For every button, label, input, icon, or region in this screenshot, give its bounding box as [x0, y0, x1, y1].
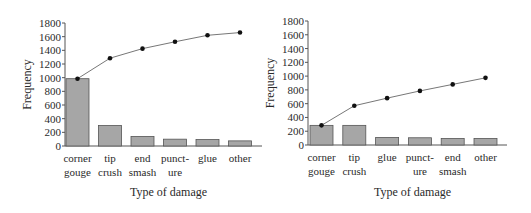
x-tick-label: crush [342, 165, 366, 177]
x-tick-label: crush [98, 166, 122, 178]
y-tick-label: 1400 [282, 43, 305, 55]
y-tick-label: 1800 [282, 15, 305, 27]
x-tick-label: gouge [308, 165, 335, 177]
bar [343, 125, 366, 145]
y-tick-label: 400 [288, 111, 305, 123]
y-tick-label: 600 [288, 98, 305, 110]
x-tick-label: other [229, 152, 252, 164]
bar [474, 138, 497, 145]
y-tick-label: 1200 [39, 58, 62, 70]
x-tick-label: smash [439, 165, 467, 177]
cumulative-marker [450, 82, 455, 87]
y-axis-label: Frequency [263, 58, 277, 109]
y-tick-label: 0 [56, 140, 62, 152]
x-axis-label: Type of damage [130, 185, 207, 199]
y-tick-label: 200 [45, 126, 62, 138]
x-tick-label: corner [63, 152, 91, 164]
y-tick-label: 400 [45, 113, 62, 125]
x-tick-label: tip [104, 152, 116, 164]
bar [229, 141, 252, 146]
y-tick-label: 1000 [282, 70, 305, 82]
x-tick-label: smash [129, 166, 157, 178]
y-tick-label: 1200 [282, 56, 305, 68]
cumulative-marker [140, 46, 145, 51]
x-tick-label: punct- [161, 152, 189, 164]
x-tick-label: tip [348, 151, 360, 163]
x-tick-label: gouge [64, 166, 91, 178]
x-tick-label: other [474, 151, 497, 163]
bar [164, 139, 187, 146]
x-tick-label: corner [307, 151, 335, 163]
cumulative-line [78, 33, 241, 79]
cumulative-marker [418, 89, 423, 94]
x-tick-label: ure [413, 165, 427, 177]
chart-2: 020040060080010001200140016001800Frequen… [263, 15, 507, 199]
y-tick-label: 1800 [39, 17, 62, 29]
x-tick-label: ure [168, 166, 182, 178]
cumulative-marker [319, 123, 324, 128]
cumulative-marker [205, 33, 210, 38]
x-tick-label: end [135, 152, 151, 164]
bar [408, 138, 431, 145]
bar [196, 140, 219, 146]
cumulative-marker [385, 96, 390, 101]
y-tick-label: 1000 [39, 72, 62, 84]
bar [99, 126, 122, 147]
bar [66, 79, 89, 146]
y-tick-label: 800 [288, 84, 305, 96]
y-tick-label: 600 [45, 99, 62, 111]
y-axis-label: Frequency [20, 59, 34, 110]
y-tick-label: 1600 [39, 31, 62, 43]
cumulative-line [322, 78, 486, 126]
x-tick-label: glue [378, 151, 397, 163]
bar [310, 125, 333, 145]
y-tick-label: 200 [288, 125, 305, 137]
y-tick-label: 1400 [39, 44, 62, 56]
pareto-charts: 020040060080010001200140016001800Frequen… [0, 0, 531, 213]
chart-1: 020040060080010001200140016001800Frequen… [20, 17, 262, 199]
y-tick-label: 0 [299, 139, 305, 151]
cumulative-marker [483, 76, 488, 81]
x-tick-label: glue [198, 152, 217, 164]
bar [376, 137, 399, 145]
x-tick-label: punct- [406, 151, 434, 163]
x-axis-label: Type of damage [374, 185, 451, 199]
bar [131, 136, 154, 146]
cumulative-marker [238, 30, 243, 35]
x-tick-label: end [445, 151, 461, 163]
bar [441, 138, 464, 145]
y-tick-label: 1600 [282, 29, 305, 41]
cumulative-marker [352, 103, 357, 108]
y-tick-label: 800 [45, 85, 62, 97]
cumulative-marker [75, 76, 80, 81]
cumulative-marker [173, 39, 178, 44]
cumulative-marker [108, 56, 113, 61]
